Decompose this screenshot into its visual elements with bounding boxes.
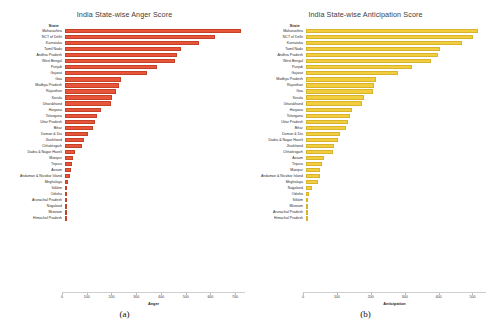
- bar-category-label: Himachal Pradesh: [4, 216, 65, 220]
- bar: [306, 162, 322, 166]
- bar-category-label: West Bengal: [245, 59, 306, 63]
- bar: [306, 138, 338, 142]
- x-axis-tick-label: 400: [436, 295, 442, 299]
- bar-category-label: Arunachal Pradesh: [4, 198, 65, 202]
- bar-category-label: Assam: [4, 168, 65, 172]
- x-axis-tick-label: 500: [469, 295, 475, 299]
- bar-category-label: Rajasthan: [245, 83, 306, 87]
- bar: [306, 71, 398, 75]
- figure-two-panel-bar-charts: India State-wise Anger Score State Mahar…: [0, 0, 490, 327]
- bar: [65, 83, 119, 87]
- bar: [306, 89, 374, 93]
- bar: [65, 210, 67, 214]
- bar-category-label: Manipur: [245, 168, 306, 172]
- bar: [306, 59, 432, 63]
- panel-b: India State-wise Anticipation Score Stat…: [245, 6, 486, 321]
- bar-category-label: Meghalaya: [4, 180, 65, 184]
- bar-category-label: NCT of Delhi: [4, 35, 65, 39]
- bar: [306, 47, 440, 51]
- bar-category-label: Jharkhand: [245, 144, 306, 148]
- caption-b-text: (b): [360, 309, 371, 319]
- x-axis-area-b: Anticipation 0100200300400500: [303, 292, 486, 306]
- bar: [65, 174, 70, 178]
- bar: [306, 35, 473, 39]
- bar-category-label: Goa: [245, 89, 306, 93]
- x-axis-tick-label: 0: [61, 295, 63, 299]
- bar: [306, 204, 308, 208]
- bar-category-label: Sikkim: [4, 186, 65, 190]
- bar: [65, 120, 96, 124]
- x-axis-tick-label: 200: [368, 295, 374, 299]
- bar-category-label: Chhattisgarh: [245, 150, 306, 154]
- bar-category-label: Maharashtra: [4, 29, 65, 33]
- bar: [65, 216, 67, 220]
- bar: [65, 192, 67, 196]
- x-axis-tick-label: 400: [158, 295, 164, 299]
- bar-category-label: Uttar Pradesh: [4, 120, 65, 124]
- x-axis-title-a: Anger: [148, 301, 159, 306]
- bar: [65, 114, 97, 118]
- bar: [65, 180, 69, 184]
- x-axis-tick-label: 100: [84, 295, 90, 299]
- bar-category-label: Madhya Pradesh: [4, 83, 65, 87]
- bar-category-label: Odisha: [4, 192, 65, 196]
- bar: [306, 126, 347, 130]
- bar: [306, 120, 349, 124]
- bar: [65, 204, 67, 208]
- bar: [306, 65, 413, 69]
- caption-a-text: (a): [120, 309, 130, 319]
- bar: [65, 29, 241, 33]
- x-axis-a: Anger 0100200300400500600700: [4, 292, 245, 306]
- bar: [306, 210, 308, 214]
- bar: [306, 41, 462, 45]
- x-axis-tick-label: 300: [402, 295, 408, 299]
- bar-category-label: NCT of Delhi: [245, 35, 306, 39]
- x-axis-b: Anticipation 0100200300400500: [245, 292, 486, 306]
- bar-track: [306, 215, 487, 221]
- bar-row: Himachal Pradesh: [4, 215, 245, 221]
- bar: [65, 108, 102, 112]
- bar: [306, 53, 438, 57]
- bar-category-label: Andaman & Nicobar Island: [4, 174, 65, 178]
- bar: [306, 168, 321, 172]
- bar-category-label: Uttarakhand: [4, 102, 65, 106]
- bar: [65, 101, 111, 105]
- bar: [65, 95, 113, 99]
- bar-category-label: West Bengal: [4, 59, 65, 63]
- bar-category-label: Uttar Pradesh: [245, 120, 306, 124]
- bar-category-label: Punjab: [245, 65, 306, 69]
- bar-category-label: Karnataka: [245, 41, 306, 45]
- x-axis-tick-label: 600: [207, 295, 213, 299]
- x-axis-tick-label: 300: [133, 295, 139, 299]
- caption-a: (a): [4, 309, 245, 321]
- bar: [306, 83, 375, 87]
- bar-category-label: Kerala: [245, 96, 306, 100]
- plot-area-b: State MaharashtraNCT of DelhiKarnatakaTa…: [245, 22, 486, 306]
- bar: [306, 174, 320, 178]
- bar-category-label: Jharkhand: [4, 138, 65, 142]
- chart-title-a: India State-wise Anger Score: [4, 10, 245, 19]
- bar-category-label: Telangana: [4, 114, 65, 118]
- bar-category-label: Punjab: [4, 65, 65, 69]
- bar-category-label: Maharashtra: [245, 29, 306, 33]
- bar-category-label: Andhra Pradesh: [4, 53, 65, 57]
- bar-rows-a: MaharashtraNCT of DelhiKarnatakaTamil Na…: [4, 28, 245, 292]
- bar-rows-b: MaharashtraNCT of DelhiKarnatakaTamil Na…: [245, 28, 486, 292]
- bar: [65, 126, 94, 130]
- bar: [306, 114, 351, 118]
- bar: [306, 198, 309, 202]
- bar: [65, 71, 148, 75]
- bar-category-label: Nagaland: [245, 186, 306, 190]
- bar-category-label: Madhya Pradesh: [245, 77, 306, 81]
- bar-track: [65, 215, 246, 221]
- bar-category-label: Telangana: [245, 114, 306, 118]
- bar: [65, 59, 175, 63]
- bar-category-label: Tamil Nadu: [245, 47, 306, 51]
- bar: [65, 144, 82, 148]
- bar: [65, 198, 67, 202]
- bar: [65, 77, 122, 81]
- plot-area-a: State MaharashtraNCT of DelhiKarnatakaTa…: [4, 22, 245, 306]
- bar: [306, 132, 341, 136]
- bar: [65, 162, 73, 166]
- bar: [65, 35, 216, 39]
